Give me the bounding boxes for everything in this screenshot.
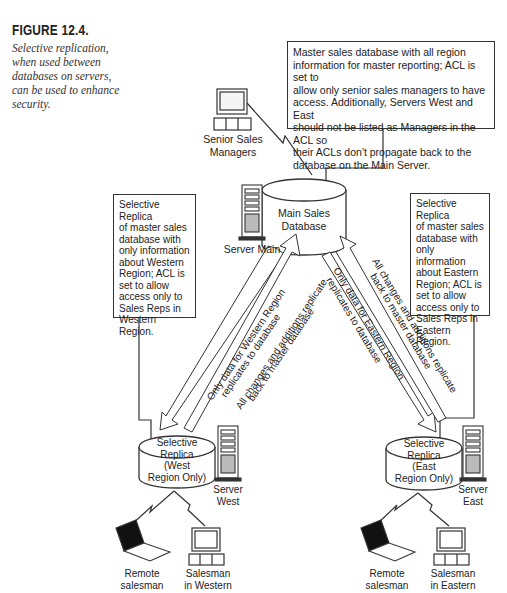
east-note-box: Selective Replica of master sales databa… xyxy=(410,193,490,316)
salesman-west-pc-icon xyxy=(189,528,224,565)
server-east-label: Server East xyxy=(453,484,493,507)
west-db-label: Selective Replica (West Region Only) xyxy=(139,437,215,483)
salesman-west-label: Salesman in Western xyxy=(180,568,236,591)
main-db-label: Main Sales Database xyxy=(262,207,346,232)
remote-east-label: Remote salesman xyxy=(357,568,417,591)
senior-managers-label: Senior Sales Managers xyxy=(200,133,266,158)
server-west-icon xyxy=(215,426,241,481)
server-main-label: Server Main xyxy=(218,243,286,256)
salesman-east-label: Salesman in Eastern xyxy=(425,568,481,591)
server-east-icon xyxy=(460,426,486,481)
remote-west-label: Remote salesman xyxy=(112,568,172,591)
salesman-west-link xyxy=(174,491,205,526)
remote-east-laptop-icon xyxy=(361,520,415,561)
remote-west-laptop-icon xyxy=(116,520,170,561)
east-db-label: Selective Replica (East Region Only) xyxy=(386,438,462,484)
server-west-label: Server West xyxy=(208,484,248,507)
west-note-box: Selective Replica of master sales databa… xyxy=(113,194,196,318)
salesman-east-pc-icon xyxy=(434,528,469,565)
master-note-box: Master sales database with all region in… xyxy=(287,41,495,129)
salesman-east-link xyxy=(418,493,449,526)
senior-managers-pc-icon xyxy=(214,89,251,130)
